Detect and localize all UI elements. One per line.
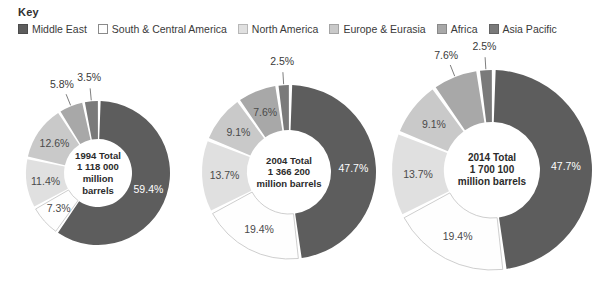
legend-item-north-america: North America [238,24,319,35]
legend-item-south-central-america: South & Central America [98,24,227,35]
slice-percent-label: 9.1% [226,127,250,138]
slice-percent-label: 19.4% [443,230,473,241]
chart-page: Key Middle EastSouth & Central AmericaNo… [0,0,610,284]
slice-percent-label: 7.6% [253,107,277,118]
legend-swatch-icon [329,24,339,34]
leader-line [283,72,284,84]
slice-percent-label: 3.5% [77,72,101,83]
slice-percent-label: 5.8% [50,79,74,90]
legend-label: North America [252,24,319,35]
slice-percent-label: 12.6% [40,137,70,148]
slice-percent-label: 7.6% [434,50,458,61]
leader-line [90,88,91,100]
slice-percent-label: 13.7% [403,168,433,179]
slice-percent-label: 19.4% [244,224,274,235]
leader-line [450,65,454,76]
legend-item-middle-east: Middle East [18,24,87,35]
slice-percent-label: 47.7% [551,161,581,172]
slice-percent-label: 9.1% [422,119,446,130]
slice-percent-label: 11.4% [31,175,60,186]
legend-label: South & Central America [112,24,227,35]
leader-line [66,94,71,105]
legend-swatch-icon [18,24,28,34]
donut-svg [346,24,610,284]
key-title: Key [18,6,39,18]
donut-chart-2014: 2014 Total1 700 100million barrels47.7%1… [346,24,610,284]
legend-label: Middle East [32,24,87,35]
slice-percent-label: 7.3% [47,203,71,214]
leader-line [485,57,486,69]
slice-percent-label: 13.7% [210,170,240,181]
slice-percent-label: 2.5% [472,41,496,52]
slice-percent-label: 2.5% [270,56,294,67]
legend-swatch-icon [98,24,108,34]
legend-swatch-icon [238,24,248,34]
